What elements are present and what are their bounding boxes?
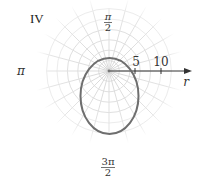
radial-axis-label: r (183, 75, 190, 89)
angle-label-3pi-over-2-denominator: 2 (105, 167, 111, 178)
polar-plot: π 2 π 3π 2 5 10 r (0, 0, 198, 190)
angle-label-3pi-over-2-numerator: 3π (102, 156, 115, 167)
arrow-right-icon (184, 68, 192, 74)
angle-label-pi-over-2-numerator: π (104, 11, 112, 22)
radial-tick-label-5: 5 (132, 55, 140, 69)
pole-point (108, 70, 111, 73)
radial-tick-label-10: 10 (153, 55, 168, 69)
angle-label-pi-over-2-denominator: 2 (105, 22, 111, 33)
angle-label-pi: π (16, 64, 26, 78)
